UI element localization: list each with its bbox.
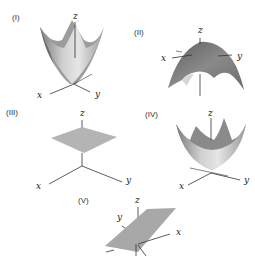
panel-V-x-label: x (176, 228, 181, 237)
panel-V-z-label: z (135, 196, 140, 205)
panel-IV-x-label: x (179, 182, 184, 191)
panel-I-surface (40, 20, 104, 94)
panel-V-y-label: y (117, 213, 122, 222)
panel-IV-z-label: z (208, 109, 213, 118)
figure-graphics (0, 0, 255, 269)
panel-I-x-label: x (37, 91, 42, 100)
panel-I-y-label: y (95, 90, 100, 99)
panel-IV-label: (IV) (145, 110, 158, 119)
panel-III-label: (III) (6, 108, 18, 117)
panel-II-label: (II) (134, 28, 144, 37)
panel-I-label: (I) (12, 13, 20, 22)
panel-I-z-label: z (73, 12, 78, 21)
panel-II-y-label: y (237, 52, 242, 61)
panel-V-surface (105, 207, 176, 256)
panel-IV-y-label: y (244, 176, 249, 185)
panel-II-surface (168, 38, 244, 96)
panel-II-z-label: z (198, 26, 203, 35)
panel-II-x-label: x (161, 54, 166, 63)
panel-III-surface (49, 120, 122, 184)
panel-III-x-label: x (36, 182, 41, 191)
panel-III-z-label: z (80, 109, 85, 118)
panel-V-label: (V) (78, 196, 89, 205)
panel-III-y-label: y (126, 176, 131, 185)
panel-IV-surface (176, 118, 246, 185)
